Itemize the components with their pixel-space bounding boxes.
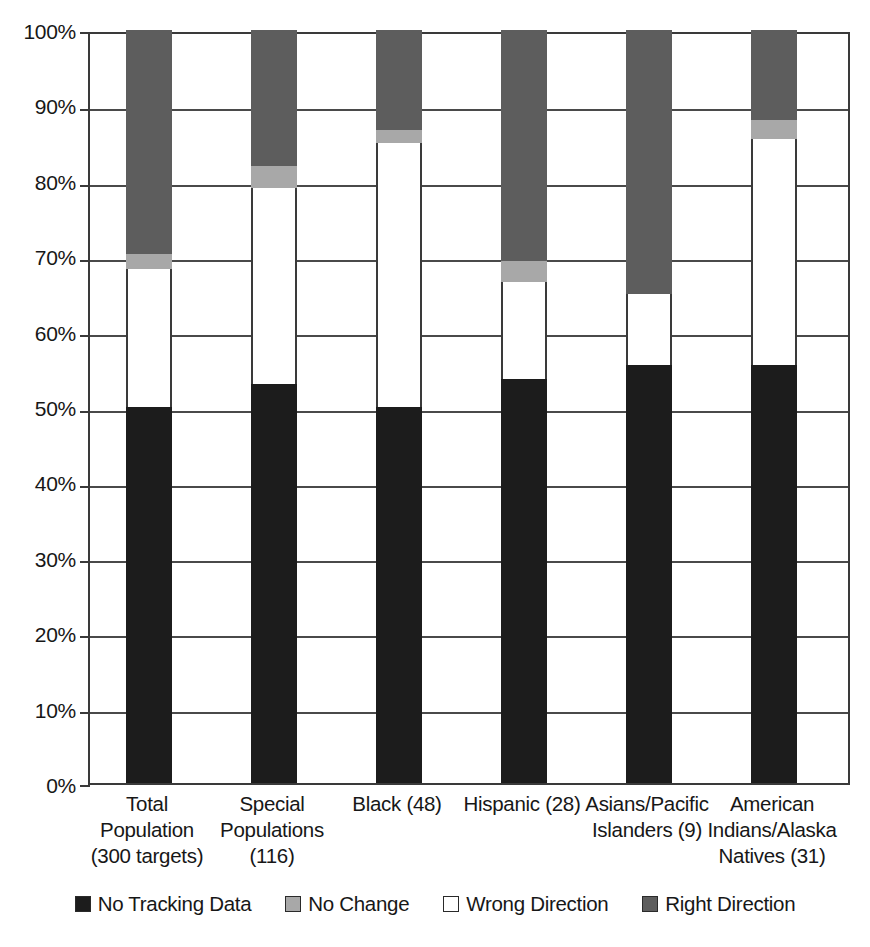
legend-swatch-icon	[443, 896, 459, 912]
bar-segment-no-tracking-data	[251, 384, 297, 783]
bar-segment-no-change	[251, 166, 297, 189]
y-tick-label: 60%	[35, 323, 76, 344]
bar-segment-wrong-direction	[626, 294, 672, 366]
legend-item-right-direction: Right Direction	[642, 893, 795, 915]
stacked-bar-chart: 100% 90% 80% 70% 60% 50% 40% 30% 20% 10%…	[0, 0, 870, 947]
bar-segment-no-change	[126, 254, 172, 269]
x-label-line: Populations	[192, 817, 352, 843]
y-tick-20	[80, 636, 90, 638]
y-tick-30	[80, 561, 90, 563]
legend-item-no-tracking-data: No Tracking Data	[75, 893, 252, 915]
y-tick-40	[80, 486, 90, 488]
y-tick-100	[80, 32, 90, 34]
gridline-50	[90, 411, 848, 413]
y-tick-label: 50%	[35, 398, 76, 419]
bar-segment-wrong-direction	[376, 143, 422, 407]
gridline-30	[90, 561, 848, 563]
y-tick-50	[80, 411, 90, 413]
bar-segment-no-change	[751, 120, 797, 139]
bar-segment-right-direction	[126, 30, 172, 254]
legend-label: Wrong Direction	[466, 893, 608, 915]
bar-segment-right-direction	[376, 30, 422, 130]
y-tick-label: 40%	[35, 473, 76, 494]
legend-label: Right Direction	[665, 893, 795, 915]
legend-label: No Tracking Data	[98, 893, 252, 915]
bar-segment-right-direction	[751, 30, 797, 120]
x-label-line: Indians/Alaska	[692, 817, 852, 843]
gridline-80	[90, 185, 848, 187]
chart-legend: No Tracking Data No Change Wrong Directi…	[0, 893, 870, 915]
y-tick-90	[80, 109, 90, 111]
gridline-90	[90, 109, 848, 111]
legend-item-no-change: No Change	[285, 893, 409, 915]
y-tick-70	[80, 260, 90, 262]
y-tick-0	[80, 785, 90, 787]
plot-area	[88, 32, 850, 785]
bar-segment-wrong-direction	[126, 269, 172, 407]
y-tick-10	[80, 712, 90, 714]
bar-segment-wrong-direction	[501, 282, 547, 380]
y-tick-label: 70%	[35, 247, 76, 268]
y-tick-label: 100%	[23, 21, 76, 42]
gridline-40	[90, 486, 848, 488]
bar-segment-right-direction	[501, 30, 547, 261]
bar-segment-no-change	[376, 130, 422, 143]
bar-segment-no-tracking-data	[501, 379, 547, 783]
bar-segment-wrong-direction	[251, 188, 297, 384]
gridline-20	[90, 636, 848, 638]
legend-swatch-icon	[75, 896, 91, 912]
y-tick-label: 10%	[35, 700, 76, 721]
y-tick-label: 30%	[35, 549, 76, 570]
bar-segment-no-tracking-data	[626, 365, 672, 783]
gridline-10	[90, 712, 848, 714]
legend-swatch-icon	[642, 896, 658, 912]
bar-segment-wrong-direction	[751, 139, 797, 365]
y-tick-60	[80, 335, 90, 337]
y-tick-label: 80%	[35, 172, 76, 193]
bar-segment-no-tracking-data	[751, 365, 797, 783]
legend-item-wrong-direction: Wrong Direction	[443, 893, 608, 915]
bar-segment-no-tracking-data	[126, 407, 172, 784]
y-tick-label: 90%	[35, 96, 76, 117]
legend-label: No Change	[308, 893, 409, 915]
y-tick-80	[80, 185, 90, 187]
x-label-line: (116)	[192, 843, 352, 869]
bar-segment-right-direction	[626, 30, 672, 294]
y-tick-label: 20%	[35, 624, 76, 645]
x-label-line: Natives (31)	[692, 843, 852, 869]
bar-segment-no-tracking-data	[376, 407, 422, 784]
x-label-line: American	[692, 791, 852, 817]
bar-segment-no-change	[501, 261, 547, 281]
bar-segment-right-direction	[251, 30, 297, 166]
gridline-60	[90, 335, 848, 337]
x-label-american-indians-alaska-natives: American Indians/Alaska Natives (31)	[692, 791, 852, 869]
legend-swatch-icon	[285, 896, 301, 912]
gridline-70	[90, 260, 848, 262]
